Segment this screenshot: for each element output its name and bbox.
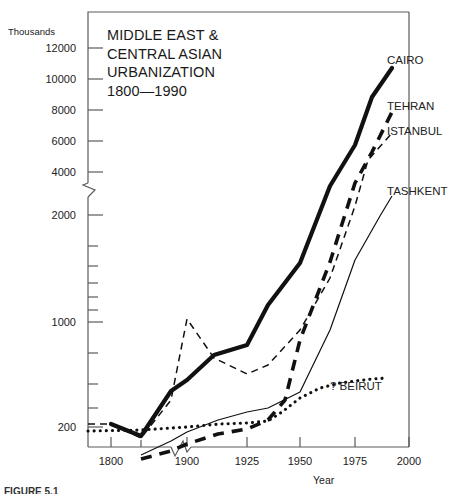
- y-tick-label: 12000: [18, 42, 76, 54]
- series-label-cairo: CAIRO: [387, 54, 423, 66]
- axis-break-marks: [83, 183, 191, 456]
- x-tick-label: 1975: [325, 455, 385, 467]
- chart-title: MIDDLE EAST & CENTRAL ASIAN URBANIZATION…: [107, 26, 222, 100]
- chart-title-line-3: URBANIZATION: [107, 63, 222, 82]
- series-label-tehran: TEHRAN: [387, 100, 434, 112]
- chart-title-line-1: MIDDLE EAST &: [107, 26, 222, 45]
- series-label-beirut: ? BEIRUT: [330, 380, 382, 392]
- y-tick-label: 2000: [18, 209, 76, 221]
- x-tick-label: 2000: [379, 455, 439, 467]
- chart-title-line-2: CENTRAL ASIAN: [107, 45, 222, 64]
- series-label-istanbul: ISTANBUL: [387, 125, 442, 137]
- y-tick-label: 6000: [18, 135, 76, 147]
- x-tick-label: 1950: [270, 455, 330, 467]
- y-tick-label: 1000: [18, 316, 76, 328]
- y-tick-label: 200: [18, 421, 76, 433]
- figure-caption: FIGURE 5.1: [4, 486, 58, 494]
- series-label-tashkent: TASHKENT: [387, 185, 448, 197]
- series-line-tehran: [141, 112, 392, 459]
- x-tick-label: 1900: [157, 455, 217, 467]
- figure-canvas: Thousands 12000 10000 8000 6000 4000 200…: [0, 0, 452, 494]
- chart-title-line-4: 1800—1990: [107, 82, 222, 101]
- x-tick-label: 1925: [217, 455, 277, 467]
- y-tick-marks: [88, 48, 103, 427]
- x-axis-title: Year: [313, 474, 334, 486]
- y-axis-unit-label: Thousands: [8, 26, 55, 37]
- y-tick-label: 8000: [18, 104, 76, 116]
- series-line-tashkent: [141, 196, 392, 455]
- x-tick-marks: [111, 437, 409, 447]
- y-tick-label: 10000: [18, 73, 76, 85]
- x-tick-label: 1800: [81, 455, 141, 467]
- y-tick-label: 4000: [18, 166, 76, 178]
- y-axis-break-zigzag: [83, 183, 95, 197]
